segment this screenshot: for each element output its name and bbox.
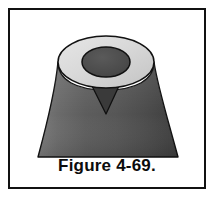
figure-caption: Figure 4-69. — [0, 156, 214, 176]
figure-container: Figure 4-69. — [0, 0, 214, 197]
crater-hole-ellipse — [82, 47, 130, 77]
top-face — [58, 36, 154, 88]
